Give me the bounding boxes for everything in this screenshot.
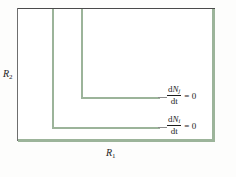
- plot-frame-right-edge: [212, 9, 215, 142]
- nullcline-i-equation-label: dNi dt = 0: [167, 115, 196, 136]
- nullcline-j-denominator: dt: [170, 97, 179, 106]
- plot-frame-left-edge: [17, 8, 18, 141]
- nullcline-i-horizontal-segment: [52, 127, 160, 129]
- nullcline-i-equation-rhs: = 0: [184, 121, 196, 131]
- nullcline-j-equation-label: dNj dt = 0: [167, 85, 196, 106]
- nullcline-i-vertical-segment: [52, 9, 54, 129]
- nullcline-i-leader-line: [158, 127, 167, 128]
- nullcline-i-numerator: dNi: [167, 115, 181, 125]
- nullcline-j-numerator-sub: j: [179, 87, 181, 94]
- nullcline-i-numerator-sub: i: [179, 117, 181, 124]
- nullcline-j-fraction: dNj dt: [167, 85, 181, 106]
- plot-frame-top-edge: [17, 8, 215, 9]
- nullcline-j-vertical-segment: [81, 9, 83, 99]
- nullcline-i-denominator: dt: [170, 127, 179, 136]
- nullcline-i-fraction: dNi dt: [167, 115, 181, 136]
- nullcline-j-equation-rhs: = 0: [184, 91, 196, 101]
- y-axis-label-subscript: 2: [9, 73, 13, 81]
- y-axis-label: R2: [3, 68, 13, 81]
- x-axis-label: R1: [106, 147, 116, 160]
- x-axis-label-subscript: 1: [112, 152, 116, 160]
- nullcline-j-horizontal-segment: [81, 97, 160, 99]
- plot-frame-bottom-edge: [18, 139, 215, 142]
- nullcline-j-leader-line: [158, 97, 167, 98]
- nullcline-j-numerator: dNj: [167, 85, 181, 95]
- resource-nullcline-figure: dNj dt = 0 dNi dt = 0 R2 R1: [0, 0, 236, 177]
